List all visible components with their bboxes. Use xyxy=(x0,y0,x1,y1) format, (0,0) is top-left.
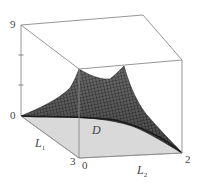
l1-axis-max-label: 3 xyxy=(70,156,76,167)
l1-axis-label: L1 xyxy=(35,137,45,152)
surface-plot xyxy=(0,0,200,185)
z-axis-max-label: 9 xyxy=(10,19,16,30)
l2-axis-max-label: 2 xyxy=(185,154,191,165)
l1-axis-label-sub: 1 xyxy=(42,144,46,152)
l2-axis-min-label: 0 xyxy=(82,160,88,171)
z-axis-min-label: 0 xyxy=(10,110,16,121)
l2-axis-label: L2 xyxy=(137,164,147,179)
region-d-label: D xyxy=(92,124,101,136)
l2-axis-label-sub: 2 xyxy=(144,171,148,179)
l2-axis-label-base: L xyxy=(137,163,144,177)
l1-axis-label-base: L xyxy=(35,136,42,150)
